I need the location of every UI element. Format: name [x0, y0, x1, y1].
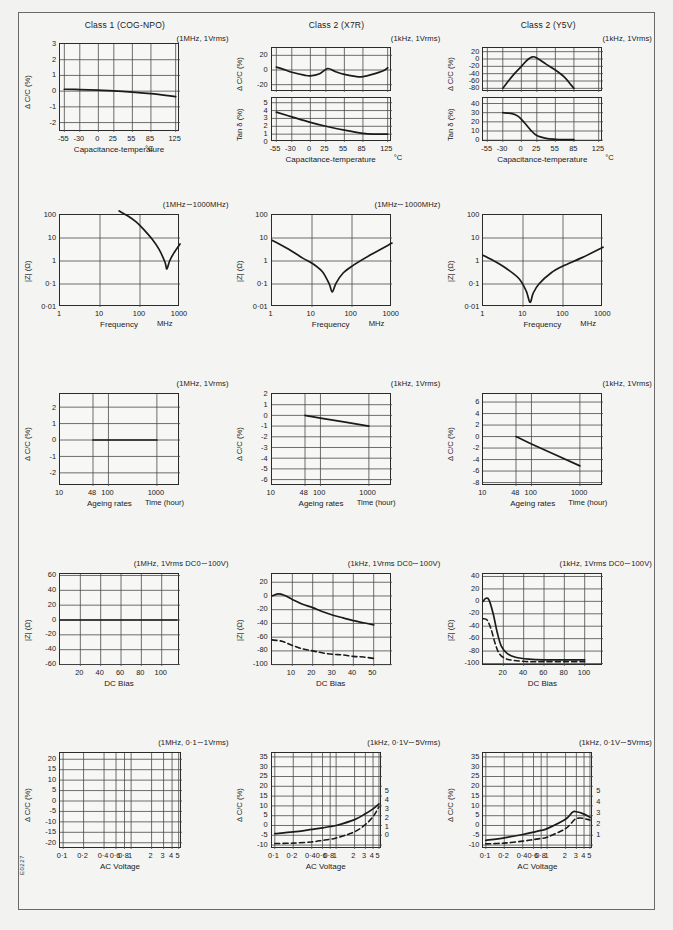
- chart-condition-dcbias-cog: (1MHz, 1Vrms DC0∼100V): [134, 559, 229, 568]
- xtick-dcbias-y5v-3: 80: [560, 668, 568, 677]
- xtick-acvolt-cog-9: 5: [176, 851, 180, 860]
- ytick-freq-y5v-0: 100: [448, 210, 479, 219]
- xtick-freq-cog-0: 1: [57, 309, 61, 318]
- chart-dcbias-x7r: (1kHz, 1Vrms DC0∼100V)200-20-40-60-80-10…: [231, 551, 443, 730]
- ytick-ageing-cog-4: -2: [25, 468, 56, 477]
- xtick-cap-temp-cog-2: 0: [95, 134, 99, 143]
- xlabel-acvolt-x7r: AC Voltage: [306, 862, 346, 871]
- ytick-dcbias-y5v-1: 20: [448, 583, 479, 592]
- xtick-ageing-x7r-0: 10: [267, 488, 275, 497]
- ytick-dcbias-x7r-1: 0: [237, 590, 268, 599]
- ytick-dcbias-x7r-6: -100: [237, 659, 268, 668]
- ylabel-cap-temp-x7r-bottom: Tan δ (%): [235, 109, 244, 142]
- gridlines-dcbias-y5v: [483, 574, 603, 666]
- xtick-dcbias-y5v-2: 60: [539, 668, 547, 677]
- chart-freq-y5v: 1001010·10·011101001000|Z| (Ω)FrequencyM…: [442, 192, 654, 371]
- gridlines-freq-y5v: [483, 215, 603, 307]
- plot-area-dcbias-x7r: [271, 573, 391, 665]
- xtick-cap-temp-y5v-1: -30: [497, 144, 508, 153]
- chart-cell-cap-temp-x7r: Class 2 (X7R)(1kHz, 1Vrms)200-20Δ C/C (%…: [231, 13, 443, 192]
- chart-freq-x7r: (1MHz∼1000MHz)1001010·10·011101001000|Z|…: [231, 192, 443, 371]
- xtick-acvolt-y5v-2: 0·4: [517, 851, 528, 860]
- xtick-freq-cog-2: 100: [133, 309, 145, 318]
- ytick-dcbias-y5v-6: -80: [448, 645, 479, 654]
- ytick-dcbias-x7r-2: -20: [237, 604, 268, 613]
- plot-area-cap-temp-y5v-bottom: [482, 97, 602, 141]
- xtick-cap-temp-y5v-0: -55: [481, 144, 492, 153]
- xtick-cap-temp-x7r-6: 125: [380, 144, 392, 153]
- chart-condition-cap-temp-cog: (1MHz, 1Vrms): [177, 34, 229, 43]
- gridlines-cap-temp-y5v-bottom: [483, 98, 603, 142]
- xlabel-ageing-x7r: Ageing rates: [299, 499, 344, 508]
- xtick-cap-temp-x7r-0: -55: [270, 144, 281, 153]
- xunit-ageing-cog: Time (hour): [145, 498, 184, 507]
- xtick-cap-temp-y5v-5: 85: [569, 144, 577, 153]
- xtick-acvolt-x7r-1: 0·2: [287, 851, 298, 860]
- xlabel-ageing-cog: Ageing rates: [87, 499, 132, 508]
- xtick-ageing-y5v-3: 1000: [571, 488, 587, 497]
- chart-condition-acvolt-cog: (1MHz, 0·1∼1Vrms): [158, 738, 228, 747]
- chart-acvolt-y5v: (1kHz, 0·1V∼5Vrms)35302520151050-5-10543…: [442, 730, 654, 909]
- xtick-cap-temp-x7r-1: -30: [285, 144, 296, 153]
- chart-condition-ageing-y5v: (1kHz, 1Vrms): [602, 379, 652, 388]
- xtick-cap-temp-x7r-2: 0: [307, 144, 311, 153]
- gridlines-acvolt-x7r: [272, 753, 382, 849]
- xtick-acvolt-y5v-0: 0·1: [480, 851, 491, 860]
- ytick-acvolt-cog-2: 10: [25, 774, 56, 783]
- xtick-dcbias-x7r-0: 10: [287, 668, 295, 677]
- gridlines-acvolt-cog: [60, 753, 182, 849]
- ytick-acvolt-x7r-8: -5: [237, 830, 268, 839]
- chart-cell-freq-y5v: 1001010·10·011101001000|Z| (Ω)FrequencyM…: [442, 192, 654, 371]
- chart-dcbias-cog: (1MHz, 1Vrms DC0∼100V)6040200-20-40-6020…: [19, 551, 231, 730]
- ylabel-cap-temp-y5v-top: Δ C/C (%): [446, 57, 455, 91]
- xtick-cap-temp-cog-4: 55: [127, 134, 135, 143]
- ylabel-cap-temp-cog: Δ C/C (%): [23, 75, 32, 109]
- xtick-cap-temp-cog-5: 85: [146, 134, 154, 143]
- ylabel-ageing-cog: Δ C/C (%): [23, 428, 32, 462]
- ytick-cap-temp-cog-5: -2: [25, 117, 56, 126]
- xlabel-acvolt-cog: AC Voltage: [100, 862, 140, 871]
- ytick-acvolt-y5v-8: -5: [448, 830, 479, 839]
- xtick-acvolt-cog-2: 0·4: [98, 851, 109, 860]
- ylabel-cap-temp-y5v-bottom: Tan δ (%): [446, 109, 455, 142]
- ytick-freq-cog-1: 10: [25, 233, 56, 242]
- xtick-freq-y5v-0: 1: [480, 309, 484, 318]
- ylabel-ageing-y5v: Δ C/C (%): [446, 428, 455, 462]
- ytick-acvolt-y5v-1: 30: [448, 761, 479, 770]
- xtick-acvolt-cog-7: 3: [161, 851, 165, 860]
- gridlines-acvolt-y5v: [483, 753, 593, 849]
- ytick-dcbias-cog-2: 20: [25, 599, 56, 608]
- xtick-acvolt-y5v-6: 2: [563, 851, 567, 860]
- xtick-ageing-x7r-1: 48: [300, 488, 308, 497]
- xtick-dcbias-cog-3: 80: [136, 668, 144, 677]
- ytick-acvolt-x7r-1: 30: [237, 761, 268, 770]
- chart-title-cap-temp-x7r: Class 2 (X7R): [231, 20, 443, 30]
- ytick-right-acvolt-x7r-0: 5: [385, 786, 389, 795]
- chart-cell-acvolt-y5v: (1kHz, 0·1V∼5Vrms)35302520151050-5-10543…: [442, 730, 654, 909]
- chart-condition-acvolt-x7r: (1kHz, 0·1V∼5Vrms): [367, 738, 440, 747]
- xtick-cap-temp-y5v-6: 125: [592, 144, 604, 153]
- xtick-freq-x7r-1: 10: [307, 309, 315, 318]
- chart-cell-cap-temp-y5v: Class 2 (Y5V)(1kHz, 1Vrms)200-20-40-60-8…: [442, 13, 654, 192]
- xtick-acvolt-cog-5: 1: [128, 851, 132, 860]
- plot-area-cap-temp-y5v-top: [482, 47, 602, 91]
- xlabel-freq-y5v: Frequency: [523, 320, 561, 329]
- xtick-cap-temp-x7r-5: 85: [357, 144, 365, 153]
- chart-title-cap-temp-y5v: Class 2 (Y5V): [442, 20, 654, 30]
- series-y5v-ageing: [516, 437, 580, 466]
- ylabel-dcbias-y5v: |Z| (Ω): [446, 619, 455, 640]
- xlabel-freq-cog: Frequency: [100, 320, 138, 329]
- chart-condition-cap-temp-x7r: (1kHz, 1Vrms): [391, 34, 441, 43]
- plot-area-freq-x7r: [271, 214, 391, 306]
- xunit-ageing-y5v: Time (hour): [568, 498, 607, 507]
- ytick-acvolt-cog-7: -15: [25, 827, 56, 836]
- ylabel-dcbias-x7r: |Z| (Ω): [235, 619, 244, 640]
- series-x7r-tan-delta: [276, 112, 387, 134]
- ylabel-acvolt-cog: Δ C/C (%): [23, 788, 32, 822]
- ytick-freq-cog-4: 0·01: [25, 302, 56, 311]
- chart-cell-acvolt-x7r: (1kHz, 0·1V∼5Vrms)35302520151050-5-10543…: [231, 730, 443, 909]
- ytick-freq-x7r-0: 100: [237, 210, 268, 219]
- series-y5v-capacitance-change: [503, 57, 574, 89]
- ytick-freq-y5v-4: 0·01: [448, 302, 479, 311]
- chart-cell-acvolt-cog: (1MHz, 0·1∼1Vrms)20151050-5-10-15-200·10…: [19, 730, 231, 909]
